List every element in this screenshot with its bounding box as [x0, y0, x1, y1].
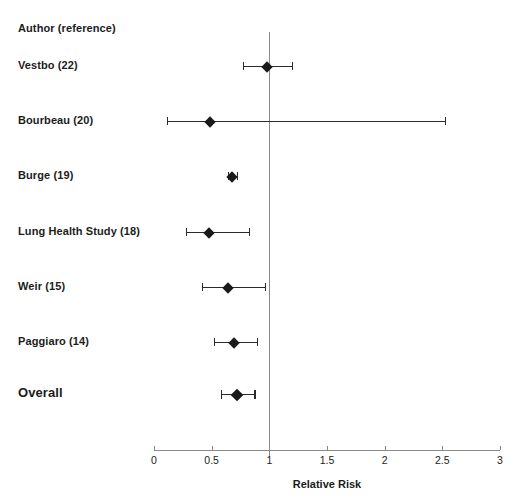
- ci-cap-lower: [221, 390, 222, 399]
- row-label-burge-19: Burge (19): [18, 169, 73, 181]
- row-label-bourbeau-20: Bourbeau (20): [18, 114, 93, 126]
- row-label-weir-15: Weir (15): [18, 280, 65, 292]
- ci-line: [186, 232, 248, 233]
- x-axis-tick-label: 2: [382, 454, 388, 466]
- ci-cap-lower: [202, 283, 203, 291]
- x-axis-tick: [212, 446, 213, 450]
- x-axis-tick-label: 0.5: [204, 454, 219, 466]
- point-estimate-marker: [222, 282, 233, 293]
- forest-plot: Author (reference)Vestbo (22)Bourbeau (2…: [0, 0, 520, 502]
- point-estimate-marker: [228, 337, 239, 348]
- point-estimate-marker: [261, 61, 272, 72]
- row-label-overall: Overall: [18, 385, 63, 400]
- point-estimate-marker: [231, 388, 244, 401]
- x-axis-tick-label: 1: [266, 454, 272, 466]
- x-axis-tick-label: 2.5: [435, 454, 450, 466]
- reference-line-at-1: [269, 32, 270, 456]
- ci-cap-lower: [243, 62, 244, 70]
- x-axis-tick: [327, 446, 328, 450]
- ci-cap-upper: [249, 228, 250, 236]
- point-estimate-marker: [205, 116, 216, 127]
- column-header-author: Author (reference): [18, 22, 116, 34]
- x-axis-tick: [442, 446, 443, 450]
- ci-cap-lower: [186, 228, 187, 236]
- ci-cap-upper: [265, 283, 266, 291]
- row-label-lung-health-study-18: Lung Health Study (18): [18, 225, 140, 237]
- x-axis-tick-label: 0: [151, 454, 157, 466]
- x-axis-tick: [154, 446, 155, 450]
- ci-cap-lower: [167, 117, 168, 125]
- row-label-vestbo-22: Vestbo (22): [18, 59, 78, 71]
- point-estimate-marker: [204, 227, 215, 238]
- ci-cap-upper: [257, 338, 258, 346]
- ci-cap-lower: [214, 338, 215, 346]
- x-axis-tick-label: 3: [497, 454, 503, 466]
- x-axis-line: [154, 450, 500, 451]
- ci-cap-upper: [292, 62, 293, 70]
- x-axis-tick: [269, 446, 270, 450]
- x-axis-title: Relative Risk: [293, 478, 361, 490]
- x-axis-tick: [385, 446, 386, 450]
- row-label-paggiaro-14: Paggiaro (14): [18, 335, 89, 347]
- x-axis-tick: [500, 446, 501, 450]
- ci-cap-upper: [445, 117, 446, 125]
- x-axis-tick-label: 1.5: [320, 454, 335, 466]
- ci-cap-upper: [254, 390, 255, 399]
